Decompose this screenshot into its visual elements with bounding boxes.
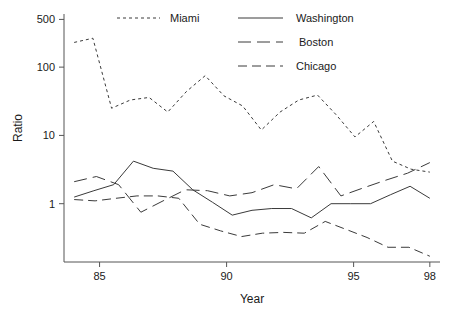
y-tick-label: 10 [43, 129, 55, 141]
legend-label-miami: Miami [170, 12, 199, 24]
x-tick-label: 85 [93, 270, 105, 282]
y-tick-label: 100 [37, 61, 55, 73]
chart-container: 110100500 85909598 Ratio Year MiamiWashi… [0, 0, 452, 313]
legend-entry-miami[interactable]: Miami [117, 12, 199, 24]
series-line-chicago [74, 196, 430, 256]
x-axis-ticks: 85909598 [93, 262, 436, 282]
legend-entry-chicago[interactable]: Chicago [238, 60, 336, 72]
y-axis-title: Ratio [11, 114, 25, 142]
x-tick-label: 95 [347, 270, 359, 282]
x-tick-label: 90 [220, 270, 232, 282]
y-tick-label: 500 [37, 13, 55, 25]
y-tick-label: 1 [49, 198, 55, 210]
data-series-group [74, 38, 430, 256]
legend-label-boston: Boston [299, 36, 333, 48]
axes-group [64, 14, 440, 262]
legend-entry-boston[interactable]: Boston [238, 36, 333, 48]
line-chart-svg: 110100500 85909598 Ratio Year MiamiWashi… [0, 0, 452, 313]
series-line-boston [74, 163, 430, 213]
legend-label-washington: Washington [296, 12, 354, 24]
series-line-washington [74, 161, 430, 218]
series-line-miami [74, 38, 430, 172]
y-axis-ticks: 110100500 [37, 13, 64, 209]
x-axis-title: Year [240, 292, 264, 306]
legend-label-chicago: Chicago [296, 60, 336, 72]
legend-entry-washington[interactable]: Washington [238, 12, 354, 24]
chart-legend: MiamiWashingtonBostonChicago [117, 12, 354, 72]
x-tick-label: 98 [424, 270, 436, 282]
